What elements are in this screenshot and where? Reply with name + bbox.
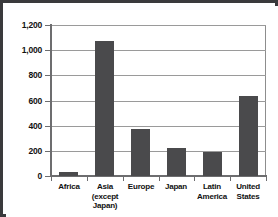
x-tick-mark <box>230 177 231 181</box>
chart-inner-panel: 02004006008001,0001,200 AfricaAsia(excep… <box>6 6 278 217</box>
gridline <box>51 151 266 152</box>
bar <box>167 148 186 176</box>
x-tick-mark <box>87 177 88 181</box>
x-tick-label-line: United <box>226 182 270 192</box>
x-tick-label-line: (except <box>83 192 127 202</box>
x-tick-mark <box>194 177 195 181</box>
gridline <box>51 25 266 26</box>
x-tick-label-line: Japan) <box>83 201 127 211</box>
chart-outer-frame: 02004006008001,0001,200 AfricaAsia(excep… <box>0 0 278 217</box>
y-tick-label: 800 <box>8 70 42 80</box>
y-tick-label: 200 <box>8 146 42 156</box>
x-tick-mark <box>266 177 267 181</box>
y-tick-label: 400 <box>8 121 42 131</box>
x-tick-mark <box>51 177 52 181</box>
y-tick-mark <box>45 75 51 76</box>
gridline <box>51 126 266 127</box>
x-tick-mark <box>123 177 124 181</box>
bar <box>131 129 150 176</box>
y-tick-mark <box>45 50 51 51</box>
y-tick-label: 600 <box>8 96 42 106</box>
y-tick-label: 0 <box>8 171 42 181</box>
y-tick-mark <box>45 151 51 152</box>
bar <box>59 172 78 176</box>
bar <box>239 96 258 176</box>
y-tick-mark <box>45 101 51 102</box>
bar <box>95 41 114 176</box>
gridline <box>51 75 266 76</box>
y-tick-label: 1,200 <box>8 20 42 30</box>
y-tick-label: 1,000 <box>8 45 42 55</box>
y-tick-mark <box>45 126 51 127</box>
gridline <box>51 101 266 102</box>
bar <box>203 152 222 176</box>
y-tick-mark <box>45 25 51 26</box>
x-tick-label-line: States <box>226 192 270 202</box>
x-tick-mark <box>159 177 160 181</box>
x-tick-label: UnitedStates <box>226 182 270 201</box>
gridline <box>51 50 266 51</box>
